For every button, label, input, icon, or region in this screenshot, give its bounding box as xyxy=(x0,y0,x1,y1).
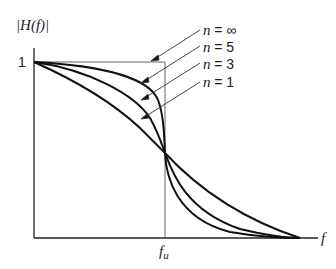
filter-response-diagram: n = ∞ n = 5 n = 3 n = 1 |H(f)| 1 f fu xyxy=(0,0,336,269)
y-axis-label: |H(f)| xyxy=(16,17,49,34)
leader-lines xyxy=(141,30,200,119)
x-tick-fu: fu xyxy=(159,243,169,261)
label-n-1: n = 1 xyxy=(203,74,234,90)
y-tick-1: 1 xyxy=(18,54,26,70)
curve-n-1 xyxy=(34,62,300,238)
x-axis-label: f xyxy=(321,230,327,246)
label-n-inf: n = ∞ xyxy=(203,22,236,38)
ideal-curve-n-inf xyxy=(34,62,165,238)
label-n-5: n = 5 xyxy=(203,39,234,55)
curve-n-5 xyxy=(34,62,300,238)
label-n-3: n = 3 xyxy=(203,56,234,72)
curve-n-3 xyxy=(34,62,300,238)
